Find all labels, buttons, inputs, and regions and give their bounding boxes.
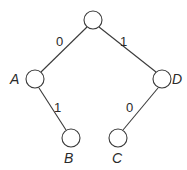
- node-c: [109, 129, 127, 147]
- node-label-a: A: [9, 71, 19, 87]
- edge-label-root-d: 1: [120, 34, 127, 49]
- node-root: [84, 11, 102, 29]
- edge-label-d-c: 0: [126, 100, 133, 115]
- edge-label-root-a: 0: [56, 34, 63, 49]
- node-a: [26, 70, 44, 88]
- node-label-c: C: [112, 150, 123, 166]
- binary-tree-diagram: 0 1 1 0 A D B C: [0, 0, 187, 170]
- node-label-b: B: [64, 150, 73, 166]
- node-b: [62, 129, 80, 147]
- edge-root-a: [41, 27, 87, 72]
- node-label-d: D: [172, 71, 182, 87]
- edge-a-b: [39, 88, 66, 130]
- edge-label-a-b: 1: [54, 100, 61, 115]
- node-d: [153, 70, 171, 88]
- edge-root-d: [99, 27, 156, 72]
